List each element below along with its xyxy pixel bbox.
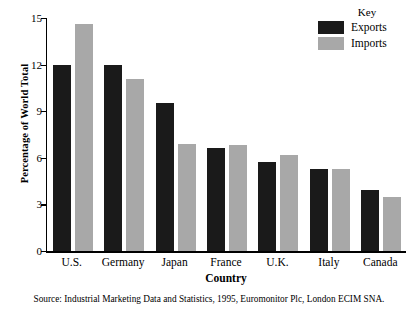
bar-exports bbox=[53, 65, 71, 251]
x-tick-label: U.K. bbox=[266, 256, 288, 268]
legend-label: Imports bbox=[351, 38, 387, 50]
x-tick-label: Italy bbox=[318, 256, 339, 268]
legend-swatch-exports bbox=[318, 21, 344, 34]
source-note: Source: Industrial Marketing Data and St… bbox=[0, 294, 418, 304]
bar-chart-figure: Percentage of World Total 03691215 U.S.G… bbox=[0, 0, 418, 312]
y-axis-title: Percentage of World Total bbox=[19, 34, 30, 214]
bar-exports bbox=[156, 103, 174, 251]
legend-entry: Exports bbox=[318, 21, 414, 34]
bar-imports bbox=[178, 144, 196, 251]
y-tick-label: 0 bbox=[37, 246, 43, 257]
bar-exports bbox=[207, 148, 225, 251]
legend-swatch-imports bbox=[318, 37, 344, 50]
bar-group bbox=[253, 18, 304, 251]
bar-group bbox=[201, 18, 252, 251]
bar-imports bbox=[280, 155, 298, 251]
y-tick-label: 6 bbox=[37, 152, 43, 163]
bar-exports bbox=[310, 169, 328, 251]
x-tick-label: Germany bbox=[102, 256, 145, 268]
bar-imports bbox=[229, 145, 247, 251]
bar-imports bbox=[332, 169, 350, 251]
x-axis-title: Country bbox=[46, 272, 406, 284]
x-axis-line bbox=[46, 251, 406, 253]
bar-imports bbox=[383, 197, 401, 251]
y-tick-label: 3 bbox=[37, 199, 43, 210]
x-tick-label: Canada bbox=[363, 256, 397, 268]
legend-title: Key bbox=[324, 6, 410, 18]
bar-imports bbox=[75, 24, 93, 251]
bar-group bbox=[150, 18, 201, 251]
bar-exports bbox=[104, 65, 122, 251]
y-tick-label: 9 bbox=[37, 106, 43, 117]
y-tick-label: 15 bbox=[31, 13, 42, 24]
legend-entries: ExportsImports bbox=[318, 21, 414, 50]
legend-label: Exports bbox=[351, 22, 387, 34]
bar-imports bbox=[126, 79, 144, 251]
bar-exports bbox=[258, 162, 276, 251]
bar-exports bbox=[361, 190, 379, 251]
x-tick-label: Japan bbox=[161, 256, 187, 268]
legend-entry: Imports bbox=[318, 37, 414, 50]
bar-group bbox=[98, 18, 149, 251]
x-tick-label: U.S. bbox=[61, 256, 81, 268]
x-tick-label: France bbox=[210, 256, 241, 268]
y-tick-label: 12 bbox=[31, 59, 42, 70]
bar-group bbox=[47, 18, 98, 251]
legend: Key ExportsImports bbox=[318, 6, 414, 53]
plot-area: 03691215 U.S.GermanyJapanFranceU.K.Italy… bbox=[46, 18, 406, 252]
